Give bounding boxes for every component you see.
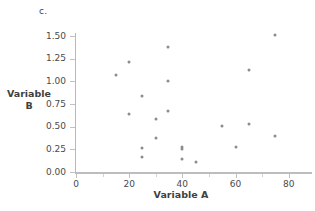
y-tick-mark	[70, 127, 75, 128]
y-tick-mark	[70, 81, 75, 82]
plot-area	[76, 36, 302, 172]
data-point	[247, 68, 250, 71]
data-point	[234, 145, 237, 148]
x-tick-minor	[262, 174, 263, 177]
scatter-plot-figure: c. Variable B Variable A 0.000.250.500.7…	[0, 0, 315, 211]
data-point	[274, 34, 277, 37]
x-tick-label: 80	[274, 180, 304, 189]
x-tick-mark	[76, 174, 77, 178]
data-point	[154, 118, 157, 121]
data-point	[247, 122, 250, 125]
data-point	[128, 61, 131, 64]
data-point	[194, 161, 197, 164]
y-tick-mark	[70, 104, 75, 105]
data-point	[128, 112, 131, 115]
y-tick-label: 0.00	[24, 168, 66, 177]
y-tick-label: 0.75	[24, 100, 66, 109]
data-point	[154, 137, 157, 140]
y-tick-label: 0.50	[24, 122, 66, 131]
data-point	[181, 158, 184, 161]
data-point	[141, 146, 144, 149]
x-axis-title: Variable A	[76, 189, 286, 200]
x-tick-mark	[289, 174, 290, 178]
y-tick-mark	[70, 149, 75, 150]
x-axis-line	[75, 172, 312, 174]
data-point	[221, 124, 224, 127]
data-point	[166, 110, 169, 113]
y-tick-mark	[70, 59, 75, 60]
data-point	[181, 148, 184, 151]
data-point	[274, 134, 277, 137]
x-tick-label: 0	[61, 180, 91, 189]
x-tick-minor	[156, 174, 157, 177]
data-point	[166, 45, 169, 48]
y-tick-label: 1.25	[24, 54, 66, 63]
data-point	[114, 73, 117, 76]
x-tick-minor	[103, 174, 104, 177]
y-tick-label: 1.50	[24, 32, 66, 41]
data-point	[166, 80, 169, 83]
data-point	[141, 155, 144, 158]
x-tick-mark	[182, 174, 183, 178]
x-tick-minor	[209, 174, 210, 177]
y-tick-mark	[70, 172, 75, 173]
x-tick-label: 20	[114, 180, 144, 189]
x-tick-mark	[129, 174, 130, 178]
y-tick-label: 1.00	[24, 77, 66, 86]
data-point	[141, 94, 144, 97]
panel-label: c.	[39, 6, 47, 17]
y-tick-label: 0.25	[24, 145, 66, 154]
y-tick-mark	[70, 36, 75, 37]
x-tick-label: 40	[167, 180, 197, 189]
x-tick-mark	[236, 174, 237, 178]
x-tick-label: 60	[221, 180, 251, 189]
